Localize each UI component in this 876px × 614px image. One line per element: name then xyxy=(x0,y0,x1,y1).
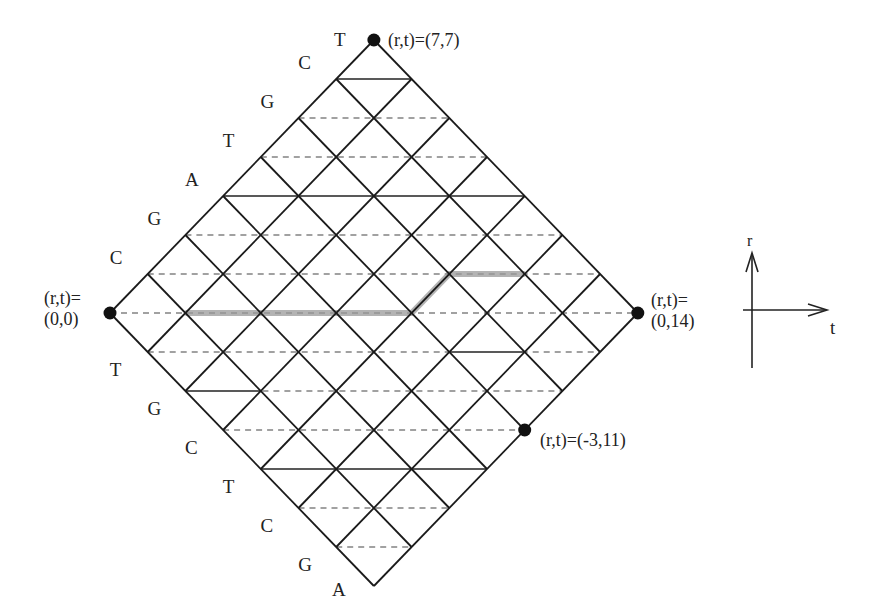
point-label-left: (r,t)= (0,0) xyxy=(44,288,81,329)
point-label-left-line2: (0,0) xyxy=(44,309,81,330)
point-label-right: (r,t)= (0,14) xyxy=(651,290,695,331)
point-right xyxy=(631,307,644,320)
sequence-letter: C xyxy=(261,516,274,535)
axis-label-r: r xyxy=(747,233,752,249)
sequence-letter: C xyxy=(110,248,123,267)
diagonal-line xyxy=(223,157,487,430)
diagonal-line xyxy=(185,118,449,391)
point-lower-right xyxy=(518,424,531,437)
axis-label-t: t xyxy=(830,318,835,337)
point-label-right-line1: (r,t)= xyxy=(651,290,695,311)
sequence-letter: C xyxy=(185,438,198,457)
diagonal-line xyxy=(223,196,487,469)
alignment-lattice xyxy=(0,0,876,614)
diagonal-line xyxy=(261,196,525,469)
sequence-letter: T xyxy=(334,30,346,49)
sequence-letter: A xyxy=(185,170,199,189)
sequence-letter: G xyxy=(147,399,161,418)
sequence-letter: T xyxy=(223,477,235,496)
sequence-letter: G xyxy=(147,209,161,228)
point-label-left-line1: (r,t)= xyxy=(44,288,81,309)
sequence-letter: G xyxy=(298,555,312,574)
diagonal-line xyxy=(110,313,374,586)
point-top xyxy=(367,34,380,47)
diagonal-line xyxy=(261,157,525,430)
point-label-right-line2: (0,14) xyxy=(651,311,695,332)
diagonal-line xyxy=(110,40,374,313)
sequence-letter: T xyxy=(110,360,122,379)
r-t-axes-icon xyxy=(743,253,827,368)
diagonal-line xyxy=(299,235,563,508)
point-label-lower-right: (r,t)=(-3,11) xyxy=(540,430,626,451)
point-left xyxy=(104,307,117,320)
sequence-letter: T xyxy=(223,131,235,150)
diagonal-line xyxy=(299,118,563,391)
diagonal-line xyxy=(185,235,449,508)
point-label-top: (r,t)=(7,7) xyxy=(388,30,459,51)
sequence-letter: C xyxy=(298,53,311,72)
sequence-letter: G xyxy=(261,92,275,111)
sequence-letter: A xyxy=(332,580,346,599)
